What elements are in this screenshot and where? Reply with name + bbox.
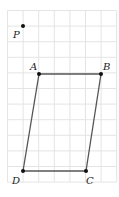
point-C	[84, 169, 88, 173]
point-label-D: D	[11, 175, 20, 186]
parallelogram-diagram: PABCD	[0, 0, 119, 197]
point-label-P: P	[12, 29, 20, 40]
point-B	[99, 72, 103, 76]
points: PABCD	[11, 24, 110, 186]
grid	[8, 11, 117, 183]
point-D	[21, 169, 25, 173]
point-A	[37, 72, 41, 76]
point-label-C: C	[86, 175, 94, 186]
point-label-A: A	[29, 61, 37, 72]
point-label-B: B	[102, 61, 110, 72]
point-P	[21, 24, 25, 28]
